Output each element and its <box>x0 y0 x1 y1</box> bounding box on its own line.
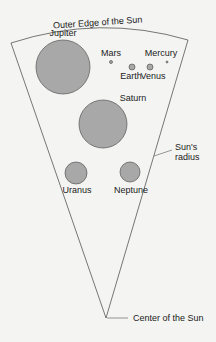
jupiter-circle <box>36 40 90 94</box>
saturn-circle <box>79 100 127 148</box>
neptune-label: Neptune <box>114 185 148 195</box>
saturn-label: Saturn <box>120 93 147 103</box>
mars-label: Mars <box>101 48 121 58</box>
radius-label-2: radius <box>175 152 200 162</box>
venus-circle <box>147 64 153 70</box>
mercury-label: Mercury <box>145 48 178 58</box>
mercury-circle <box>166 61 168 63</box>
venus-label: Venus <box>140 71 166 81</box>
uranus-circle <box>65 162 87 184</box>
radius-leader <box>154 150 172 156</box>
planets-group: JupiterMarsMercuryEarthVenusSaturnUranus… <box>36 28 178 195</box>
jupiter-label: Jupiter <box>49 28 76 38</box>
mars-circle <box>110 61 113 64</box>
radius-label-1: Sun's <box>175 142 198 152</box>
earth-circle <box>129 64 135 70</box>
sun-planets-diagram: Outer Edge of the Sun Sun's radius Cente… <box>0 0 216 342</box>
center-label: Center of the Sun <box>133 313 204 323</box>
neptune-circle <box>120 162 140 182</box>
uranus-label: Uranus <box>62 185 92 195</box>
earth-label: Earth <box>120 71 142 81</box>
